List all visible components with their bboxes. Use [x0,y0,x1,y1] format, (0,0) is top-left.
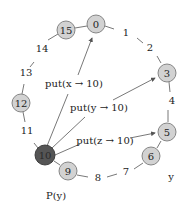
operation-label-put-z: put(z → 10) [76,136,133,146]
svg-text:5: 5 [164,127,170,138]
arrow-put-y-upper [113,78,155,100]
position-label-7: 7 [123,167,129,177]
svg-text:0: 0 [93,19,99,30]
operation-label-put-x: put(x → 10) [45,79,103,89]
position-label-2: 2 [147,43,153,53]
node-12: 12 [12,94,30,112]
arrow-put-z-upper [130,133,155,138]
arrow-put-x-upper [78,38,92,75]
svg-text:9: 9 [65,166,71,177]
operation-label-put-y: put(y → 10) [70,103,128,113]
node-15: 15 [57,21,75,39]
node-6: 6 [142,147,160,165]
position-label-1: 1 [123,28,129,38]
svg-text:15: 15 [60,25,73,36]
y-label: y [168,172,174,182]
position-label-14: 14 [36,44,49,54]
node-3: 3 [158,64,176,82]
position-label-13: 13 [20,68,33,78]
svg-text:6: 6 [148,151,154,162]
position-label-4: 4 [169,96,175,106]
node-9: 9 [59,162,77,180]
svg-text:10: 10 [39,150,52,161]
svg-text:3: 3 [164,68,170,79]
node-5: 5 [158,123,176,141]
node-0: 0 [87,15,105,33]
node-10-active: 10 [35,145,55,165]
arrow-put-x-lower [47,94,68,146]
position-label-8: 8 [95,173,101,183]
py-label: P(y) [46,191,66,201]
svg-text:12: 12 [15,98,28,109]
position-label-11: 11 [21,126,34,136]
